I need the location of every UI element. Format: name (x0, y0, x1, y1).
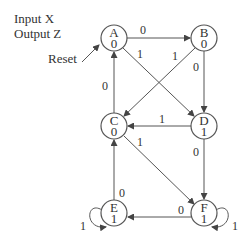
svg-text:0: 0 (201, 36, 208, 51)
state-d: D 1 (191, 113, 217, 139)
label-a-b: 0 (140, 23, 146, 37)
label-a-d: 1 (137, 47, 143, 61)
state-e: E 1 (101, 200, 127, 226)
svg-text:1: 1 (111, 211, 118, 226)
reset-arrow (82, 45, 99, 62)
label-d-f: 0 (193, 145, 199, 159)
label-c-a: 0 (102, 79, 108, 93)
label-e-c: 0 (119, 186, 125, 200)
label-c-f: 1 (137, 135, 143, 149)
svg-text:0: 0 (111, 36, 118, 51)
edge-b-c (124, 48, 195, 116)
svg-text:1: 1 (201, 124, 208, 139)
svg-text:0: 0 (111, 124, 118, 139)
reset-label: Reset (48, 51, 77, 66)
label-f-f: 1 (232, 219, 238, 233)
edge-c-f (124, 136, 194, 204)
svg-text:1: 1 (201, 211, 208, 226)
label-b-d: 0 (193, 60, 199, 74)
state-a: A 0 (101, 25, 127, 51)
state-f: F 1 (191, 200, 217, 226)
state-b: B 0 (191, 25, 217, 51)
label-d-c: 1 (159, 112, 165, 126)
state-c: C 0 (101, 113, 127, 139)
edge-a-d (123, 48, 194, 116)
label-e-e: 1 (80, 219, 86, 233)
label-f-e: 0 (178, 203, 184, 217)
state-diagram: A 0 B 0 C 0 D 1 E 1 F 1 0 1 1 0 0 1 1 0 … (0, 0, 249, 244)
label-b-c: 1 (172, 49, 178, 63)
